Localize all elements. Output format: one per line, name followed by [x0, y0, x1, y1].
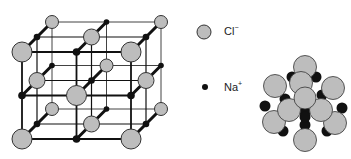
cl-ion: [46, 16, 59, 29]
na-sphere: [260, 101, 271, 112]
cl-ion: [84, 29, 100, 45]
cl-ion: [155, 103, 168, 116]
space-filling-model: [260, 56, 348, 152]
na-ion: [49, 63, 55, 69]
cl-ion: [100, 59, 113, 72]
cl-legend-label: Cl−: [224, 24, 238, 37]
cl-ion: [84, 116, 100, 132]
cl-ion: [46, 103, 59, 116]
na-ion: [104, 106, 110, 112]
cl-ion: [138, 73, 154, 89]
na-ion: [143, 121, 150, 128]
nacl-figure: [0, 0, 351, 159]
cl-ion: [12, 42, 32, 62]
cl-ion: [12, 129, 32, 149]
na-ion: [73, 48, 81, 56]
na-ion: [104, 19, 110, 25]
legend: [197, 25, 211, 90]
cl-sphere: [322, 77, 345, 100]
na-ion: [18, 92, 26, 100]
cl-legend-icon: [197, 25, 211, 39]
na-sphere: [300, 112, 311, 123]
na-ion: [73, 135, 81, 143]
cl-ion: [121, 129, 141, 149]
na-ion: [143, 34, 150, 41]
na-legend-icon: [202, 84, 208, 90]
cl-ion: [155, 16, 168, 29]
cl-sphere: [294, 87, 316, 109]
na-ion: [127, 92, 135, 100]
na-legend-label: Na+: [224, 80, 242, 93]
cl-ion: [67, 86, 87, 106]
na-ion: [88, 77, 95, 84]
lattice-diagram: [12, 16, 168, 150]
cl-ion: [121, 42, 141, 62]
cl-sphere: [294, 129, 317, 152]
na-ion: [158, 63, 164, 69]
na-ion: [34, 34, 41, 41]
cl-ion: [29, 73, 45, 89]
na-ion: [34, 121, 41, 128]
cl-sphere: [264, 75, 287, 98]
